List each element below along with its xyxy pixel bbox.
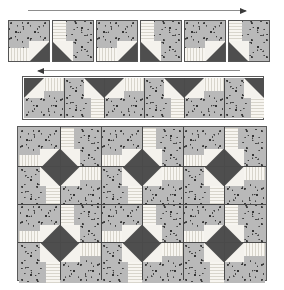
quilt-block-unit	[104, 78, 144, 118]
dark-triangle-patch	[40, 166, 61, 187]
step1-block-b6	[228, 20, 270, 62]
half-square-triangle-unit	[24, 78, 44, 98]
dark-triangle-patch	[228, 41, 249, 62]
quilt-block-unit	[101, 166, 142, 207]
stripe-fabric-patch	[91, 98, 104, 118]
dark-triangle-patch	[52, 41, 73, 62]
dark-triangle-patch	[117, 41, 138, 62]
step3-block-r3c5	[224, 242, 265, 283]
stripe-fabric-patch	[163, 166, 184, 180]
step1-block-b5	[184, 20, 226, 62]
seam-line-horizontal	[18, 166, 266, 167]
step3-block-r3c3	[142, 242, 183, 283]
half-square-triangle-unit	[60, 166, 81, 187]
seam-line-vertical	[184, 78, 185, 118]
step3-block-r0c3	[142, 128, 183, 169]
half-square-triangle-unit	[224, 166, 245, 187]
quilt-block-unit	[183, 166, 224, 207]
quilt-block-unit	[140, 20, 182, 62]
half-square-triangle-unit	[40, 166, 61, 187]
quilt-block-unit	[224, 166, 265, 207]
dark-triangle-patch	[164, 78, 184, 98]
quilt-block-unit	[60, 166, 101, 207]
half-square-triangle-unit	[29, 41, 50, 62]
stripe-fabric-patch	[140, 20, 154, 41]
step2-block-c1	[24, 78, 64, 118]
quilt-block-unit	[52, 20, 94, 62]
half-square-triangle-unit	[142, 242, 163, 263]
stripe-fabric-patch	[210, 263, 224, 284]
quilt-block-unit	[142, 128, 183, 169]
stripe-fabric-patch	[8, 48, 29, 62]
stripe-fabric-patch	[171, 98, 184, 118]
quilt-block-unit	[96, 20, 138, 62]
stripe-fabric-patch	[142, 204, 156, 225]
step3-block-r1c5	[224, 166, 265, 207]
dark-triangle-patch	[40, 242, 61, 263]
step3-block-r3c1	[60, 242, 101, 283]
quilt-block-unit	[101, 128, 142, 169]
step3-block-r3c2	[101, 242, 142, 283]
step3-block-r0c2	[101, 128, 142, 169]
step3-block-r3c4	[183, 242, 224, 283]
stripe-fabric-patch	[81, 166, 102, 180]
dark-triangle-patch	[60, 166, 81, 187]
quilt-block-unit	[184, 78, 224, 118]
quilt-block-unit	[8, 20, 50, 62]
seam-line-horizontal	[18, 242, 266, 243]
quilt-block-unit	[142, 166, 183, 207]
half-square-triangle-unit	[142, 166, 163, 187]
quilt-block-unit	[64, 78, 104, 118]
stripe-fabric-patch	[184, 48, 205, 62]
seam-line-vertical	[64, 78, 65, 118]
stripe-fabric-patch	[142, 128, 156, 149]
step3-block-r2c1	[60, 204, 101, 245]
step1-direction-arrow	[28, 8, 246, 14]
half-square-triangle-unit	[122, 242, 143, 263]
quilt-block-unit	[224, 128, 265, 169]
dark-triangle-patch	[60, 242, 81, 263]
quilt-block-unit	[19, 242, 60, 283]
stripe-fabric-patch	[128, 263, 142, 284]
dark-triangle-patch	[122, 242, 143, 263]
dark-triangle-patch	[140, 41, 161, 62]
half-square-triangle-unit	[228, 41, 249, 62]
quilt-block-unit	[19, 204, 60, 245]
dark-triangle-patch	[29, 41, 50, 62]
stripe-fabric-patch	[224, 128, 238, 149]
step3-block-r1c1	[60, 166, 101, 207]
step3-block-r2c5	[224, 204, 265, 245]
quilt-block-unit	[142, 204, 183, 245]
stripe-fabric-patch	[163, 242, 184, 256]
stripe-fabric-patch	[52, 20, 66, 41]
step1-block-b1	[8, 20, 50, 62]
step3-block-r0c5	[224, 128, 265, 169]
arrow-head-right-icon	[240, 8, 247, 14]
stripe-fabric-patch	[224, 204, 238, 225]
half-square-triangle-unit	[117, 41, 138, 62]
stripe-fabric-patch	[44, 78, 64, 91]
step2-block-c2	[64, 78, 104, 118]
quilt-block-unit	[183, 242, 224, 283]
stripe-fabric-patch	[124, 78, 144, 91]
step3-block-r1c4	[183, 166, 224, 207]
dark-triangle-patch	[84, 78, 104, 98]
step3-block-r0c4	[183, 128, 224, 169]
step3-block-r1c2	[101, 166, 142, 207]
step3-block-r2c2	[101, 204, 142, 245]
step3-block-r0c0	[19, 128, 60, 169]
half-square-triangle-unit	[204, 242, 225, 263]
step3-block-r2c4	[183, 204, 224, 245]
quilt-block-unit	[101, 242, 142, 283]
dark-triangle-patch	[184, 78, 204, 98]
step2-block-c4	[144, 78, 184, 118]
seam-line-vertical	[224, 78, 225, 118]
step3-block-r1c0	[19, 166, 60, 207]
half-square-triangle-unit	[164, 78, 184, 98]
half-square-triangle-unit	[184, 78, 204, 98]
stripe-fabric-patch	[81, 242, 102, 256]
step1-block-b4	[140, 20, 182, 62]
step2-block-c3	[104, 78, 144, 118]
dark-triangle-patch	[204, 166, 225, 187]
dark-triangle-patch	[104, 78, 124, 98]
